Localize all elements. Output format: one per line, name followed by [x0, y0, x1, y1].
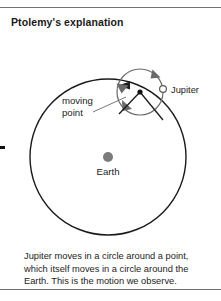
moving-point-to-jupiter-line — [140, 92, 163, 120]
moving-point-marker — [137, 89, 142, 94]
jupiter-label: Jupiter — [171, 85, 199, 95]
earth-marker — [103, 152, 113, 162]
figure-panel: Ptolemy's explanation — [0, 0, 221, 301]
epicycle-arrow-top — [151, 70, 161, 79]
top-divider — [0, 7, 221, 8]
caption-line-2: which itself moves in a circle around th… — [24, 263, 210, 276]
caption-line-3: Earth. This is the motion we observe. — [24, 275, 210, 288]
jupiter-marker — [160, 86, 167, 93]
page-title: Ptolemy's explanation — [11, 16, 124, 28]
moving-point-label-line1: moving — [62, 95, 93, 106]
ptolemaic-epicycle-diagram: Jupiter moving point Earth — [0, 36, 221, 246]
moving-point-label-line2: point — [62, 107, 83, 118]
bottom-divider — [0, 289, 221, 290]
diagram-svg: Jupiter moving point Earth — [0, 36, 221, 246]
earth-label: Earth — [97, 166, 120, 177]
figure-caption: Jupiter moves in a circle around a point… — [24, 250, 210, 288]
caption-line-1: Jupiter moves in a circle around a point… — [24, 250, 210, 263]
